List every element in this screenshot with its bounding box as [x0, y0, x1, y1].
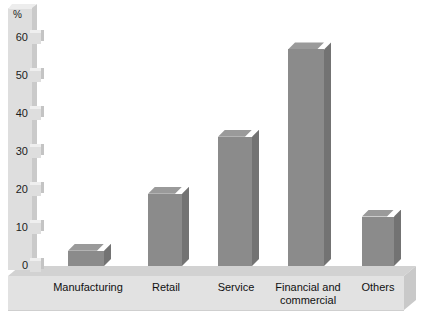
bar-category-label: Manufacturing — [44, 281, 132, 294]
y-axis-tick-label: 10 — [0, 222, 28, 233]
bar-front-face — [218, 137, 252, 266]
bar-top-face — [218, 130, 252, 137]
y-axis-tick-0 — [30, 261, 41, 272]
bar[interactable] — [68, 244, 104, 266]
bar[interactable] — [148, 187, 182, 266]
y-axis-tick-50 — [30, 71, 41, 82]
bar-chart: % 6050403020100 ManufacturingRetailServi… — [0, 0, 432, 318]
y-axis-tick-label: 20 — [0, 184, 28, 195]
bar-category-label: Financial andcommercial — [262, 281, 354, 307]
bar-side-face — [252, 130, 259, 266]
bar-top-face — [148, 187, 182, 194]
bar-side-face — [324, 42, 331, 266]
bar-top-face — [362, 210, 394, 217]
y-axis-tick-30 — [30, 147, 41, 158]
bar[interactable] — [362, 210, 394, 266]
y-axis-tick-20 — [30, 185, 41, 196]
y-axis-tick-label: 30 — [0, 146, 28, 157]
bar-front-face — [288, 49, 324, 266]
bar[interactable] — [218, 130, 252, 266]
bar-top-face — [288, 42, 324, 49]
bar-front-face — [148, 194, 182, 266]
y-axis-tick-60 — [30, 33, 41, 44]
chart-floor-top — [8, 266, 416, 276]
bar-category-label: Retail — [126, 281, 206, 294]
y-axis-tick-40 — [30, 109, 41, 120]
y-axis-tick-label: 40 — [0, 108, 28, 119]
bar-category-label: Others — [342, 281, 414, 294]
bar-front-face — [362, 217, 394, 266]
bar[interactable] — [288, 42, 324, 266]
y-axis-tick-label: 0 — [0, 260, 28, 271]
bar-side-face — [394, 210, 401, 266]
bar-side-face — [182, 187, 189, 266]
y-axis-unit-label: % — [13, 9, 22, 20]
bar-category-label-line1: Others — [342, 281, 414, 294]
bar-category-label-line1: Financial and — [262, 281, 354, 294]
bar-front-face — [68, 251, 104, 266]
bar-category-label-line1: Retail — [126, 281, 206, 294]
bar-category-label-line2: commercial — [262, 294, 354, 307]
y-axis-tick-10 — [30, 223, 41, 234]
bar-side-face — [104, 244, 111, 266]
bar-category-label-line1: Manufacturing — [44, 281, 132, 294]
y-axis-tick-label: 60 — [0, 32, 28, 43]
y-axis-tick-label: 50 — [0, 70, 28, 81]
bar-top-face — [68, 244, 104, 251]
